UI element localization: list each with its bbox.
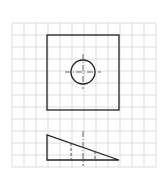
grid: [12, 23, 156, 167]
diagram-canvas: [0, 0, 164, 186]
